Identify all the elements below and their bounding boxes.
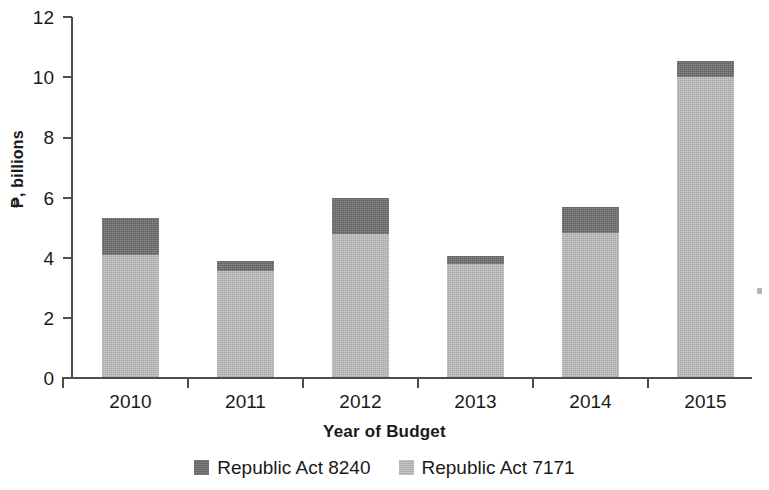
y-axis-tick-12 <box>63 16 72 18</box>
x-axis-title: Year of Budget <box>0 422 769 442</box>
y-axis-tick-label-4: 4 <box>14 249 54 268</box>
stacked-bar[interactable] <box>102 218 159 378</box>
x-axis-tick-2011-2012 <box>302 379 304 388</box>
x-axis-tick-2014-2015 <box>647 379 649 388</box>
y-axis-tick-label-12: 12 <box>14 8 54 27</box>
x-axis-tick-label-2013: 2013 <box>417 391 534 413</box>
legend-swatch-icon-ra8240 <box>194 460 209 475</box>
x-axis-tick-label-2012: 2012 <box>302 391 419 413</box>
bar-segment-ra8240 <box>447 256 504 264</box>
y-axis-tick-10 <box>63 76 72 78</box>
bar-segment-ra7171 <box>332 234 389 378</box>
y-axis-tick-label-10: 10 <box>14 68 54 87</box>
legend-item-ra7171[interactable]: Republic Act 7171 <box>399 458 575 477</box>
bar-segment-ra7171 <box>677 77 734 378</box>
legend-label-ra8240: Republic Act 8240 <box>217 458 370 477</box>
y-axis-tick-label-6: 6 <box>14 189 54 208</box>
x-axis-tick-label-2011: 2011 <box>187 391 304 413</box>
scan-artifact-speck <box>757 288 762 294</box>
y-axis-tick-label-2: 2 <box>14 309 54 328</box>
stacked-bar[interactable] <box>447 256 504 378</box>
x-axis-tick-label-2010: 2010 <box>72 391 189 413</box>
legend-item-ra8240[interactable]: Republic Act 8240 <box>194 458 370 477</box>
stacked-bar[interactable] <box>562 207 619 378</box>
legend-swatch-icon-ra7171 <box>399 460 414 475</box>
bar-segment-ra7171 <box>447 264 504 378</box>
bar-group-2012[interactable] <box>302 17 419 378</box>
plot-area <box>72 17 752 378</box>
bar-segment-ra7171 <box>217 271 274 378</box>
x-axis-tick-label-2015: 2015 <box>647 391 764 413</box>
bar-chart-figure: ₱, billions 12 10 8 6 4 2 0 <box>0 0 769 490</box>
bar-group-2015[interactable] <box>647 17 764 378</box>
x-axis-tick-2013-2014 <box>532 379 534 388</box>
bar-segment-ra7171 <box>562 233 619 378</box>
y-axis-tick-2 <box>63 317 72 319</box>
chart-legend: Republic Act 8240 Republic Act 7171 <box>0 458 769 477</box>
bar-segment-ra8240 <box>562 207 619 233</box>
legend-label-ra7171: Republic Act 7171 <box>422 458 575 477</box>
y-axis-tick-6 <box>63 197 72 199</box>
y-axis-title: ₱, billions <box>9 109 27 229</box>
y-axis-tick-label-0: 0 <box>14 369 54 388</box>
stacked-bar[interactable] <box>217 261 274 378</box>
x-axis-tick-label-2014: 2014 <box>532 391 649 413</box>
bar-group-2013[interactable] <box>417 17 534 378</box>
bar-group-2010[interactable] <box>72 17 189 378</box>
y-axis-tick-8 <box>63 137 72 139</box>
bar-segment-ra8240 <box>677 61 734 78</box>
stacked-bar[interactable] <box>332 198 389 378</box>
bar-segment-ra7171 <box>102 255 159 378</box>
stacked-bar[interactable] <box>677 61 734 378</box>
x-axis-tick-start <box>62 379 64 388</box>
bar-segment-ra8240 <box>332 198 389 234</box>
x-axis-tick-2012-2013 <box>417 379 419 388</box>
y-axis-tick-4 <box>63 257 72 259</box>
x-axis-tick-2010-2011 <box>187 379 189 388</box>
bar-segment-ra8240 <box>102 218 159 255</box>
bar-segment-ra8240 <box>217 261 274 271</box>
bar-group-2011[interactable] <box>187 17 304 378</box>
bar-group-2014[interactable] <box>532 17 649 378</box>
y-axis-tick-label-8: 8 <box>14 128 54 147</box>
